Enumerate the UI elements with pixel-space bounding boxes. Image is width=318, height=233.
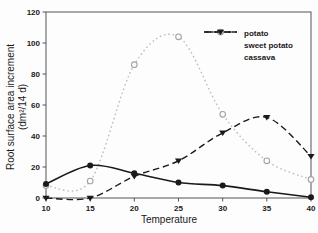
legend-label-cassava: cassava [244, 53, 275, 62]
svg-text:15: 15 [86, 204, 95, 213]
svg-text:20: 20 [31, 163, 40, 172]
y-axis-title: Root surface area increment (dm²/14 d) [5, 7, 29, 207]
svg-text:60: 60 [31, 101, 40, 110]
chart-figure: 10152025303540020406080100120 Root surfa… [0, 0, 318, 233]
svg-text:80: 80 [31, 70, 40, 79]
y-axis-title-line1: Root surface area increment [5, 7, 17, 207]
x-axis-title: Temperature [141, 214, 197, 225]
legend-row-cassava: cassava [204, 51, 293, 63]
svg-text:40: 40 [307, 204, 316, 213]
legend: potato sweet potato cassava [204, 27, 293, 63]
legend-label-sweet-potato: sweet potato [244, 41, 293, 50]
svg-text:0: 0 [36, 194, 41, 203]
svg-text:10: 10 [42, 204, 51, 213]
svg-text:20: 20 [130, 204, 139, 213]
legend-sample-cassava-line-icon [204, 52, 237, 62]
svg-text:40: 40 [31, 132, 40, 141]
legend-label-potato: potato [244, 29, 268, 38]
svg-text:35: 35 [262, 204, 271, 213]
legend-row-sweet-potato: sweet potato [204, 39, 293, 51]
svg-text:30: 30 [218, 204, 227, 213]
y-axis-title-line2: (dm²/14 d) [17, 7, 29, 207]
legend-sample-sweet-potato-line-icon [204, 40, 237, 50]
svg-text:25: 25 [174, 204, 183, 213]
